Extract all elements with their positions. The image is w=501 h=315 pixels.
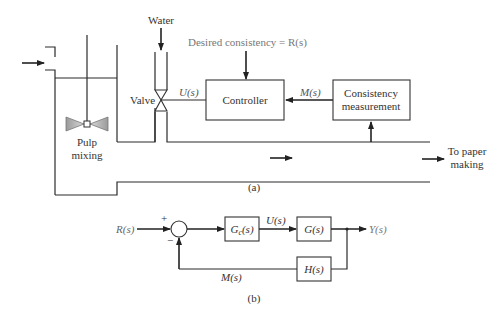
input-r-label: R(s) xyxy=(115,223,135,236)
feedback-line-right xyxy=(331,229,347,269)
m-label: M(s) xyxy=(220,271,242,284)
measurement-label-1: Consistency xyxy=(344,87,398,99)
desired-consistency-label: Desired consistency = R(s) xyxy=(188,36,307,49)
valve-label: Valve xyxy=(130,94,155,106)
to-paper-label-1: To paper xyxy=(448,145,487,157)
figure-b-block-diagram: R(s) + − Gc(s) U(s) G(s) Y(s) H(s) M(s) … xyxy=(115,212,387,305)
minus-sign: − xyxy=(167,234,173,246)
output-y-label: Y(s) xyxy=(369,223,387,236)
pulp-process-diagram: Pulp mixing Water Valve U(s) Controller … xyxy=(0,0,501,315)
figure-a-caption: (a) xyxy=(248,181,261,194)
to-paper-label-2: making xyxy=(451,158,484,170)
plus-sign: + xyxy=(161,212,167,224)
measurement-label-2: measurement xyxy=(342,100,401,112)
water-label: Water xyxy=(148,14,174,26)
controller-label: Controller xyxy=(222,94,268,106)
pulp-mixing-label-2: mixing xyxy=(71,149,103,161)
agitator-icon xyxy=(66,35,108,131)
m-signal-label: M(s) xyxy=(299,86,321,99)
u-signal-label: U(s) xyxy=(179,86,199,99)
gc-label: Gc(s) xyxy=(230,223,253,237)
g-label: G(s) xyxy=(304,223,324,236)
figure-a-process: Pulp mixing Water Valve U(s) Controller … xyxy=(22,14,487,195)
inlet-pipe xyxy=(22,47,55,77)
pulp-mixing-label-1: Pulp xyxy=(77,136,98,148)
u-label: U(s) xyxy=(266,214,286,227)
figure-b-caption: (b) xyxy=(248,292,261,305)
summing-junction xyxy=(171,221,187,237)
h-label: H(s) xyxy=(303,263,324,276)
water-pipe: Water xyxy=(148,14,430,142)
